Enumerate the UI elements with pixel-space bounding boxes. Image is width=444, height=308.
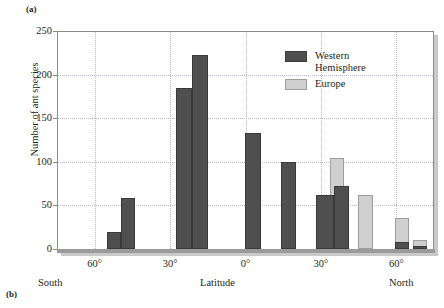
x-axis-tick-label: 0° <box>224 258 268 269</box>
plot-shadow-bottom <box>61 252 438 256</box>
bar-wh-64n <box>413 246 427 249</box>
chart-legend: Western Hemisphere Europe <box>285 50 366 95</box>
bar-wh-10n <box>245 133 261 249</box>
y-axis-tick-label: 150 <box>0 113 52 123</box>
bar-eu-47n <box>358 195 373 249</box>
bar-wh-30s-b <box>192 55 208 249</box>
legend-label-western-hemisphere: Western Hemisphere <box>315 50 366 73</box>
legend-item-western-hemisphere: Western Hemisphere <box>285 50 366 73</box>
bar-wh-20n <box>281 162 296 249</box>
legend-item-europe: Europe <box>285 78 366 90</box>
y-axis-tick-label: 50 <box>0 200 52 210</box>
y-axis-tick-label: 200 <box>0 70 52 80</box>
gridline-vertical <box>95 32 96 249</box>
x-axis-tick-label: 30° <box>299 258 343 269</box>
y-axis-tick-label: 100 <box>0 157 52 167</box>
legend-label-europe: Europe <box>315 78 345 90</box>
x-axis-label-south: South <box>38 277 63 288</box>
gridline-vertical <box>170 32 171 249</box>
x-axis-label-north: North <box>389 277 414 288</box>
gridline-vertical <box>396 32 397 249</box>
y-axis-title: Number of ant species <box>29 30 40 190</box>
y-axis-tick-mark <box>53 31 57 32</box>
x-axis-tick-label: 60° <box>374 258 418 269</box>
y-axis-tick-mark <box>53 205 57 206</box>
figure-panel-a: (a) (b) 05010015020025060°30°0°30°60° Nu… <box>0 0 444 308</box>
x-axis-tick-label: 30° <box>148 258 192 269</box>
legend-swatch-europe <box>285 79 307 90</box>
panel-label-a: (a) <box>26 4 37 14</box>
bar-wh-57n <box>395 242 409 249</box>
plot-shadow-right <box>434 35 438 256</box>
panel-label-b: (b) <box>6 289 17 299</box>
x-axis-label-latitude: Latitude <box>200 277 235 288</box>
bar-wh-33n <box>316 195 334 249</box>
y-axis-tick-label: 0 <box>0 244 52 254</box>
y-axis-tick-mark <box>53 118 57 119</box>
y-axis-tick-mark <box>53 75 57 76</box>
x-axis-line <box>57 249 435 253</box>
bar-wh-30s-a <box>176 88 192 249</box>
bar-wh-38n <box>334 186 349 249</box>
y-axis-tick-label: 250 <box>0 26 52 36</box>
x-axis-tick-label: 60° <box>73 258 117 269</box>
bar-wh-45s-a <box>107 232 121 249</box>
legend-swatch-western-hemisphere <box>285 51 307 62</box>
y-axis-tick-mark <box>53 162 57 163</box>
bar-wh-45s-b <box>121 198 135 249</box>
